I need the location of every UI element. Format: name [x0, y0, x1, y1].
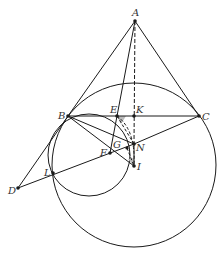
segment-bn — [68, 116, 134, 144]
label-g: G — [113, 139, 121, 150]
label-n: N — [135, 142, 146, 153]
dashed-altitude-ak — [134, 21, 135, 144]
segment-ac — [135, 21, 199, 116]
label-i: I — [136, 161, 142, 172]
segment-bd — [18, 116, 68, 188]
point-a — [133, 19, 137, 23]
segment-ab — [68, 21, 135, 116]
label-c: C — [202, 111, 210, 122]
label-f: F — [99, 147, 108, 158]
point-d — [16, 186, 20, 190]
label-e: E — [109, 104, 118, 115]
point-g — [125, 146, 128, 149]
label-k: K — [135, 104, 144, 115]
geometry-diagram: A B C E K G N F I L D — [0, 0, 220, 261]
point-f — [108, 151, 112, 155]
point-b — [66, 114, 70, 118]
segment-cn — [134, 116, 199, 144]
label-d: D — [7, 185, 16, 196]
point-c — [197, 114, 201, 118]
label-b: B — [57, 110, 65, 121]
label-l: L — [43, 167, 51, 178]
segment-dn — [18, 144, 134, 188]
segment-af — [110, 21, 135, 153]
point-i — [132, 164, 136, 168]
label-a: A — [131, 7, 139, 18]
point-l — [51, 171, 55, 175]
